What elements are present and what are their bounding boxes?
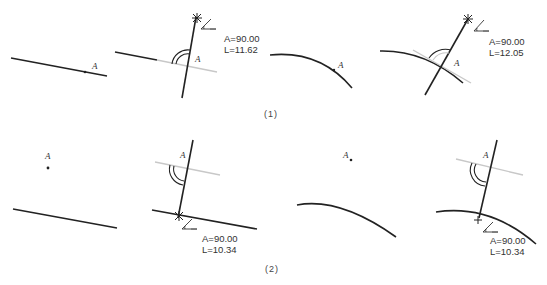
point-label-1c: A xyxy=(338,60,344,70)
length-value: L=12.05 xyxy=(489,47,525,58)
angle-value: A=90.00 xyxy=(224,33,260,44)
angle-value: A=90.00 xyxy=(489,36,525,47)
curve xyxy=(380,51,463,83)
point-label-2c: A xyxy=(343,150,349,160)
point-a xyxy=(350,159,353,162)
point-a xyxy=(84,71,87,74)
panel-2b xyxy=(152,140,257,230)
angle-value: A=90.00 xyxy=(490,235,526,246)
length-value: L=10.34 xyxy=(202,244,238,255)
caption-row1: (1) xyxy=(264,109,278,119)
right-angle-arc-outer xyxy=(169,165,183,185)
angle-value: A=90.00 xyxy=(202,233,238,244)
angle-tool-icon xyxy=(201,19,216,30)
caption-row2: (2) xyxy=(265,264,279,274)
measure-2d: A=90.00 L=10.34 xyxy=(490,235,526,257)
point-label-1a: A xyxy=(92,61,98,71)
straight-line xyxy=(152,210,257,229)
measure-1d: A=90.00 L=12.05 xyxy=(489,36,525,58)
perpendicular-line xyxy=(425,19,468,95)
curve xyxy=(297,204,396,237)
point-label-2a: A xyxy=(45,151,51,161)
point-label-1d: A xyxy=(454,58,460,68)
pen-cursor-icon xyxy=(192,13,202,23)
straight-line xyxy=(115,52,157,60)
point-label-1b: A xyxy=(195,54,201,64)
angle-tool-icon xyxy=(182,219,197,230)
perpendicular-line xyxy=(182,17,196,98)
right-angle-arc-inner xyxy=(474,164,486,182)
pen-cursor-icon xyxy=(474,216,482,224)
straight-line xyxy=(13,209,117,228)
panel-2a xyxy=(13,167,117,228)
right-angle-arc-outer xyxy=(172,50,190,64)
right-angle-arc-outer xyxy=(470,163,485,186)
angle-tool-icon xyxy=(474,20,489,32)
point-label-2d: A xyxy=(483,150,489,160)
length-value: L=10.34 xyxy=(490,246,526,257)
right-angle-arc-inner xyxy=(174,166,184,181)
measure-1b: A=90.00 L=11.62 xyxy=(224,33,260,55)
point-label-2b: A xyxy=(180,150,186,160)
diagram-canvas xyxy=(0,0,547,285)
point-a xyxy=(47,167,50,170)
panel-1b xyxy=(115,13,217,98)
point-a xyxy=(333,69,335,71)
pen-cursor-icon xyxy=(463,14,473,24)
panel-1d xyxy=(380,14,489,95)
length-value: L=11.62 xyxy=(224,44,260,55)
measure-2b: A=90.00 L=10.34 xyxy=(202,233,238,255)
angle-tool-icon xyxy=(483,222,498,233)
panel-2c xyxy=(297,159,396,237)
